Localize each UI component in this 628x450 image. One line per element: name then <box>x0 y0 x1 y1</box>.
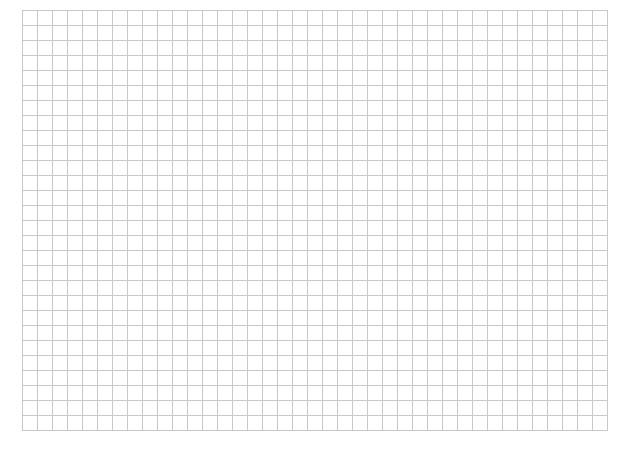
grid-paper <box>22 10 608 435</box>
grid-lines <box>22 10 608 431</box>
